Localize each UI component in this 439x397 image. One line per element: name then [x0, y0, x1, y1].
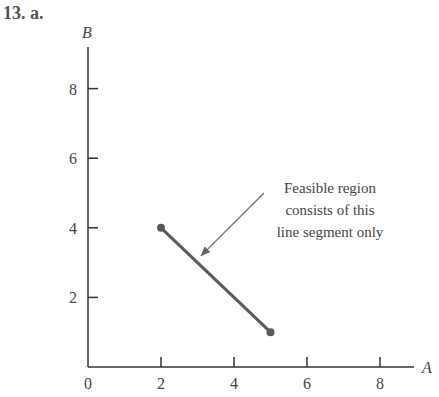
x-tick-label: 8 [376, 375, 384, 392]
feasible-line-segment [161, 228, 271, 332]
y-axis-label: B [82, 24, 92, 41]
x-tick-label: 2 [157, 375, 165, 392]
annotation: Feasible regionconsists of thisline segm… [201, 180, 384, 256]
y-tick-label: 8 [69, 81, 77, 98]
segment-endpoint [267, 328, 275, 336]
y-tick-label: 6 [69, 150, 77, 167]
annotation-text: line segment only [277, 224, 384, 240]
x-tick-label: 0 [84, 375, 92, 392]
x-tick-label: 4 [230, 375, 238, 392]
axes: BA024682468 [69, 24, 432, 392]
annotation-arrow [201, 193, 264, 256]
segment-endpoint [157, 224, 165, 232]
annotation-text: consists of this [285, 202, 374, 218]
x-axis-label: A [421, 359, 432, 376]
chart: BA024682468 Feasible regionconsists of t… [0, 0, 439, 397]
annotation-text: Feasible region [284, 180, 377, 196]
y-tick-label: 2 [69, 289, 77, 306]
x-tick-label: 6 [303, 375, 311, 392]
y-tick-label: 4 [69, 220, 77, 237]
